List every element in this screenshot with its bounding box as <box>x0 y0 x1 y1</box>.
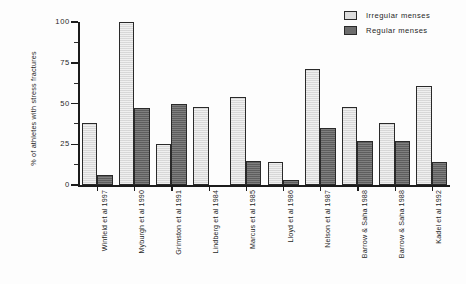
bar-irregular-menses <box>379 123 395 185</box>
legend-label: Irregular menses <box>366 11 430 20</box>
legend-swatch-icon <box>344 26 357 35</box>
y-axis-tick <box>71 144 78 146</box>
y-axis-minor-tick <box>74 42 78 43</box>
bar-irregular-menses <box>230 97 246 185</box>
y-axis-tick-label: 75 <box>40 58 70 67</box>
bar-regular-menses <box>283 180 299 185</box>
bar-irregular-menses <box>82 123 98 185</box>
bar-irregular-menses <box>193 107 209 185</box>
y-axis-line <box>78 22 80 185</box>
x-axis-category-label: Grimston et al 1991 <box>175 190 183 282</box>
y-axis-minor-tick <box>74 83 78 84</box>
x-axis-category-label: Marcus et al 1985 <box>249 190 257 282</box>
x-axis-category-label: Lindberg et al 1984 <box>212 190 220 282</box>
y-axis-tick <box>71 62 78 64</box>
bar-irregular-menses <box>268 162 284 185</box>
y-axis-label: % of athletes with stress fractures <box>29 24 38 194</box>
y-axis-tick <box>71 103 78 105</box>
bar-chart: % of athletes with stress fractures 0255… <box>0 0 466 284</box>
bar-regular-menses <box>134 108 150 185</box>
bar-irregular-menses <box>156 144 172 185</box>
x-axis-category-label: Barrow & Saha 1988 <box>361 190 369 282</box>
bar-irregular-menses <box>342 107 358 185</box>
y-axis-tick-labels: 0255075100 <box>38 22 70 185</box>
y-axis-minor-tick <box>74 164 78 165</box>
bar-irregular-menses <box>119 22 135 185</box>
x-axis-category-label: Barrow & Saha 1988 <box>398 190 406 282</box>
bar-irregular-menses <box>416 86 432 185</box>
bar-regular-menses <box>246 161 262 185</box>
bar-regular-menses <box>97 175 113 185</box>
x-axis-category-label: Winfield et al 1997 <box>101 190 109 282</box>
x-axis-category-label: Kadel et al 1992 <box>435 190 443 282</box>
plot-area <box>78 22 450 185</box>
bar-regular-menses <box>320 128 336 185</box>
y-axis-tick-label: 25 <box>40 139 70 148</box>
y-axis-tick-label: 50 <box>40 99 70 108</box>
y-axis-tick-label: 100 <box>40 17 70 26</box>
bar-regular-menses <box>395 141 411 185</box>
legend-item: Regular menses <box>344 26 430 35</box>
x-axis-category-label: Lloyd et al 1986 <box>287 190 295 282</box>
y-axis-tick-label: 0 <box>40 180 70 189</box>
legend-swatch-icon <box>344 11 357 20</box>
y-axis-minor-tick <box>74 123 78 124</box>
legend-label: Regular menses <box>366 26 428 35</box>
bar-regular-menses <box>357 141 373 185</box>
bar-irregular-menses <box>305 69 321 185</box>
y-axis-tick <box>71 184 78 186</box>
x-axis-category-label: Myburgh et al 1990 <box>138 190 146 282</box>
legend: Irregular mensesRegular menses <box>344 11 430 41</box>
bar-regular-menses <box>171 104 187 186</box>
x-axis-category-labels: Winfield et al 1997Myburgh et al 1990Gri… <box>78 191 450 283</box>
bar-regular-menses <box>432 162 448 185</box>
x-axis-category-label: Nelson et al 1987 <box>324 190 332 282</box>
y-axis-tick <box>71 21 78 23</box>
legend-item: Irregular menses <box>344 11 430 20</box>
